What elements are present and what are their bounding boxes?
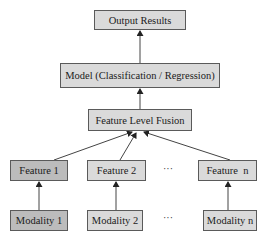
modality-n-node: Modality n bbox=[203, 210, 257, 231]
feature-n-node: Feature n bbox=[198, 160, 257, 181]
modality-1-node: Modality 1 bbox=[10, 210, 68, 231]
feature-1-node: Feature 1 bbox=[10, 160, 68, 181]
edge-feature2-to-fusion bbox=[120, 133, 136, 160]
output-results-node: Output Results bbox=[94, 10, 186, 30]
feature-2-node: Feature 2 bbox=[87, 160, 146, 181]
feature-level-fusion-node: Feature Level Fusion bbox=[88, 109, 192, 131]
modality-2-node: Modality 2 bbox=[87, 210, 143, 231]
edge-featuren-to-fusion bbox=[144, 132, 230, 160]
modality-ellipsis: ··· bbox=[163, 212, 173, 223]
model-node: Model (Classification / Regression) bbox=[60, 63, 220, 88]
edge-feature1-to-fusion bbox=[54, 132, 132, 160]
feature-ellipsis: ··· bbox=[163, 163, 173, 174]
